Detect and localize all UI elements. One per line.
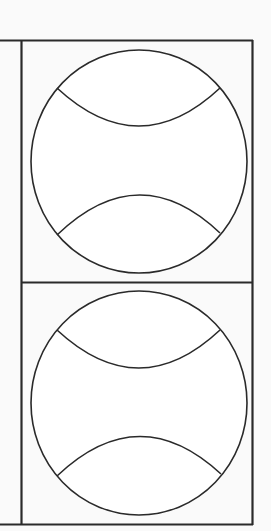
ball-outline: [31, 50, 247, 273]
ball-outline: [31, 291, 247, 515]
ball-diagram: [0, 0, 271, 531]
ball-bottom: [31, 291, 247, 515]
ball-top: [31, 50, 247, 273]
